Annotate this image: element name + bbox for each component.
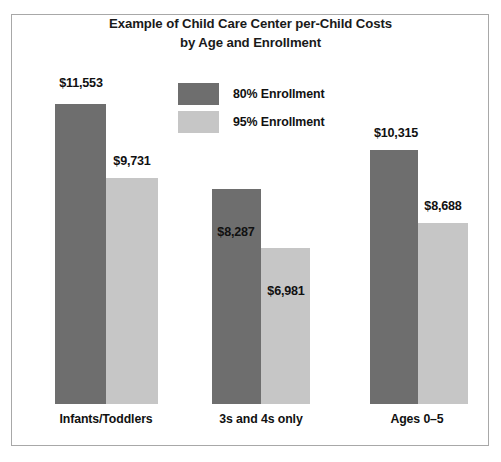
bar-infants-toddlers-95 (106, 178, 158, 404)
bar-ages-0-5-80 (370, 150, 418, 404)
plot-area: $11,553 $9,731 Infants/Toddlers $8,287 $… (0, 0, 501, 462)
bar-value-3s-and-4s-only-95: $6,981 (253, 284, 319, 298)
bar-infants-toddlers-80 (55, 104, 106, 404)
category-label-infants-toddlers: Infants/Toddlers (46, 412, 166, 426)
bar-value-infants-toddlers-95: $9,731 (99, 154, 165, 168)
bar-value-ages-0-5-80: $10,315 (360, 126, 432, 140)
category-label-3s-and-4s-only: 3s and 4s only (203, 412, 319, 426)
bar-ages-0-5-95 (418, 223, 468, 404)
bar-value-ages-0-5-95: $8,688 (410, 199, 476, 213)
bar-3s-and-4s-only-95 (261, 248, 310, 404)
bar-value-infants-toddlers-80: $11,553 (45, 76, 117, 90)
bar-value-3s-and-4s-only-80: $8,287 (203, 225, 269, 239)
category-label-ages-0-5: Ages 0–5 (359, 412, 475, 426)
